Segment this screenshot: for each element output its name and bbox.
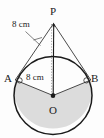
centre-dot-icon — [51, 93, 56, 98]
dimension-label-tangent: 8 cm — [12, 20, 30, 29]
leader-tick-tangent-label — [34, 38, 43, 41]
point-label-b: B — [91, 73, 98, 84]
geometry-figure: P A B O 8 cm 8 cm — [0, 0, 104, 138]
point-label-p: P — [50, 6, 56, 17]
line-po — [53, 25, 54, 96]
tangent-line-pb — [54, 24, 91, 81]
point-label-a: A — [4, 73, 12, 84]
point-label-o: O — [49, 105, 57, 116]
dimension-label-radius: 8 cm — [26, 73, 44, 82]
